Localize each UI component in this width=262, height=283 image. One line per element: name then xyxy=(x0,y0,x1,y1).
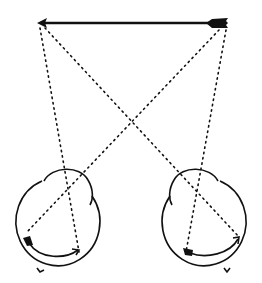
left-optic-notch xyxy=(37,268,44,272)
ray-head-to-left-eye xyxy=(40,28,79,252)
right-optic-notch xyxy=(224,268,230,272)
ray-tail-to-left-eye xyxy=(27,30,219,232)
object-arrow xyxy=(37,18,228,28)
right-cornea xyxy=(170,169,218,205)
ray-head-to-right-eye xyxy=(45,28,239,237)
arrow-fletching-icon xyxy=(206,18,228,28)
ray-tail-to-right-eye xyxy=(186,30,226,252)
left-eye xyxy=(16,169,100,272)
right-eye xyxy=(162,169,246,272)
left-eyeball xyxy=(16,181,100,266)
binocular-vision-diagram xyxy=(0,0,262,283)
right-retinal-arrow-tail-icon xyxy=(183,248,193,256)
light-rays xyxy=(27,28,239,252)
left-retinal-arc xyxy=(29,243,78,256)
left-retinal-arrow-tail-icon xyxy=(23,236,33,246)
right-retinal-arc xyxy=(190,239,238,255)
right-eyeball xyxy=(162,181,246,266)
